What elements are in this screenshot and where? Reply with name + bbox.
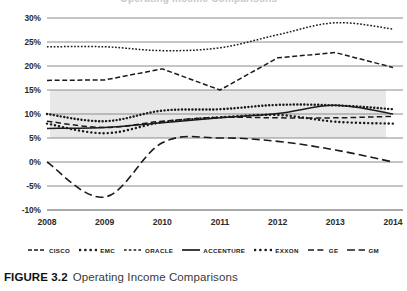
legend-label: ACCENTURE [203, 247, 245, 254]
y-axis-tick-label: 30% [24, 13, 41, 23]
y-axis-tick-label: 5% [29, 133, 42, 143]
legend-label: EXXON [275, 247, 298, 254]
legend-item-oracle[interactable]: ORACLE [124, 246, 173, 254]
y-axis-tick-label: 15% [24, 85, 41, 95]
legend-swatch-exxon-icon [254, 246, 272, 254]
clipped-heading-text: Operating Income Comparisons [120, 0, 277, 4]
chart-plot-area: 30%25%20%15%10%5%0%-5%-10%20082009201020… [0, 8, 407, 236]
series-line-cisco [47, 53, 393, 90]
figure-caption-label: FIGURE 3.2 [4, 271, 68, 283]
legend-item-exxon[interactable]: EXXON [254, 246, 298, 254]
legend-item-gm[interactable]: GM [347, 246, 379, 254]
y-axis-tick-label: 0% [29, 157, 42, 167]
line-chart: 30%25%20%15%10%5%0%-5%-10%20082009201020… [0, 8, 407, 236]
legend-label: CISCO [49, 247, 70, 254]
y-axis-tick-label: -10% [22, 205, 42, 215]
series-line-gm [47, 136, 393, 197]
x-axis-tick-label: 2008 [37, 217, 56, 227]
legend-swatch-emc-icon [79, 246, 97, 254]
x-axis-tick-label: 2012 [268, 217, 287, 227]
y-axis-tick-label: 10% [24, 109, 41, 119]
figure-container: Operating Income Comparisons 30%25%20%15… [0, 0, 407, 291]
x-axis-tick-label: 2009 [95, 217, 114, 227]
x-axis-tick-label: 2014 [383, 217, 402, 227]
legend-item-cisco[interactable]: CISCO [28, 246, 70, 254]
x-axis-tick-label: 2011 [211, 217, 230, 227]
legend-swatch-cisco-icon [28, 246, 46, 254]
series-line-oracle [47, 23, 393, 51]
x-axis-tick-label: 2010 [153, 217, 172, 227]
x-axis-tick-label: 2013 [326, 217, 345, 227]
legend-label: GM [368, 247, 379, 254]
legend-swatch-gm-icon [347, 246, 365, 254]
legend-item-accenture[interactable]: ACCENTURE [182, 246, 245, 254]
y-axis-tick-label: 25% [24, 37, 41, 47]
legend-swatch-oracle-icon [124, 246, 142, 254]
legend-item-ge[interactable]: GE [308, 246, 339, 254]
figure-caption: FIGURE 3.2 Operating Income Comparisons [4, 266, 404, 288]
legend-label: GE [329, 247, 339, 254]
chart-legend: CISCOEMCORACLEACCENTUREEXXONGEGM [0, 240, 407, 260]
legend-label: EMC [100, 247, 115, 254]
legend-swatch-ge-icon [308, 246, 326, 254]
legend-swatch-accenture-icon [182, 246, 200, 254]
figure-caption-text: Operating Income Comparisons [73, 271, 238, 283]
y-axis-tick-label: -5% [26, 181, 41, 191]
y-axis-tick-label: 20% [24, 61, 41, 71]
legend-item-emc[interactable]: EMC [79, 246, 115, 254]
legend-label: ORACLE [145, 247, 173, 254]
